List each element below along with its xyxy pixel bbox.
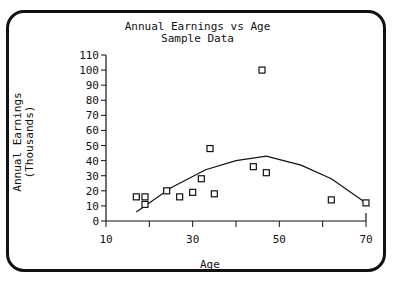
x-tick-label: 50 (273, 233, 286, 246)
data-point (177, 194, 183, 200)
y-tick-label: 30 (86, 170, 99, 183)
plot-area: 010203040506070809010011010305070 (0, 0, 395, 288)
data-point (164, 188, 170, 194)
y-tick-label: 20 (86, 185, 99, 198)
y-tick-label: 90 (86, 79, 99, 92)
data-point (250, 164, 256, 170)
y-tick-label: 40 (86, 155, 99, 168)
data-point (142, 201, 148, 207)
data-point (328, 197, 334, 203)
y-tick-label: 100 (79, 64, 99, 77)
y-tick-label: 110 (79, 49, 99, 62)
y-tick-label: 10 (86, 200, 99, 213)
data-point (259, 67, 265, 73)
data-point (133, 194, 139, 200)
y-tick-label: 0 (92, 215, 99, 228)
y-tick-label: 50 (86, 140, 99, 153)
data-point (263, 170, 269, 176)
x-tick-label: 30 (186, 233, 199, 246)
y-tick-label: 80 (86, 94, 99, 107)
data-point (190, 189, 196, 195)
y-tick-label: 60 (86, 124, 99, 137)
data-point (198, 176, 204, 182)
data-point (363, 200, 369, 206)
data-point (207, 146, 213, 152)
x-tick-label: 10 (99, 233, 112, 246)
data-point (211, 191, 217, 197)
y-tick-label: 70 (86, 109, 99, 122)
data-point (142, 194, 148, 200)
x-tick-label: 70 (359, 233, 372, 246)
